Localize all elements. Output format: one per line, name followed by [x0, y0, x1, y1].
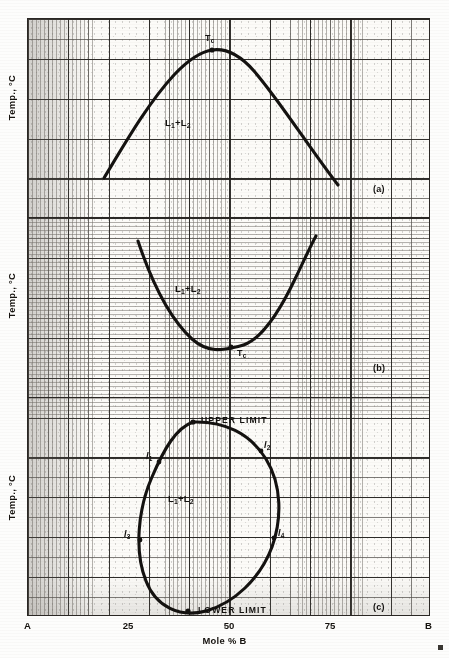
y-axis-title-panel-c: Temp., °C: [6, 455, 17, 541]
label-panel-b-critical-temperature: Tc: [237, 348, 247, 359]
x-tick-label-25: 25: [123, 620, 134, 631]
marker-panel-c-point-l1: [157, 460, 162, 465]
x-axis-title: Mole % B: [0, 635, 449, 646]
marker-panel-a-critical-point: [209, 47, 214, 52]
marker-panel-c-point-l2: [259, 449, 264, 454]
panel-tag-a: (a): [373, 184, 385, 194]
marker-panel-c-lower-limit: [185, 608, 190, 613]
marker-panel-c-upper-limit: [190, 419, 195, 424]
label-panel-a-critical-temperature: Tc: [205, 33, 215, 44]
x-tick-label-a: A: [24, 620, 31, 631]
label-panel-c-two-liquid-region: L1+L2: [168, 493, 194, 505]
marker-panel-b-critical-point: [228, 344, 233, 349]
plot-area: Tc L1+L2 (a) L1+L2 Tc (b) UPPER LIMIT LO…: [27, 18, 430, 616]
page-corner-mark: [438, 645, 443, 650]
label-panel-c-lower-limit: LOWER LIMIT: [198, 605, 267, 615]
label-panel-c-point-l1: l1: [146, 451, 153, 462]
y-axis-title-panel-a: Temp., °C: [6, 55, 17, 141]
curve-panel-c-closed-loop: [139, 422, 279, 613]
label-panel-c-point-l2: l2: [264, 440, 271, 451]
label-panel-c-point-l4: l4: [278, 528, 285, 539]
x-tick-label-50: 50: [224, 620, 235, 631]
x-tick-label-b: B: [425, 620, 432, 631]
label-panel-b-two-liquid-region: L1+L2: [175, 283, 201, 295]
curve-panel-a-miscibility-dome: [104, 50, 338, 185]
x-tick-label-75: 75: [325, 620, 336, 631]
label-panel-c-point-l3: l3: [124, 529, 131, 540]
marker-panel-c-point-l3: [138, 538, 143, 543]
label-panel-a-two-liquid-region: L1+L2: [165, 117, 191, 129]
y-axis-title-panel-b: Temp., °C: [6, 253, 17, 339]
panel-tag-b: (b): [373, 363, 385, 373]
curve-overlay: [28, 19, 430, 616]
panel-tag-c: (c): [373, 602, 385, 612]
curve-panel-b-miscibility-basin: [138, 236, 316, 350]
marker-panel-c-point-l4: [272, 536, 277, 541]
figure-liquid-miscibility-diagrams: Temp., °C Temp., °C Temp., °C: [0, 0, 449, 658]
label-panel-c-upper-limit: UPPER LIMIT: [201, 415, 268, 425]
